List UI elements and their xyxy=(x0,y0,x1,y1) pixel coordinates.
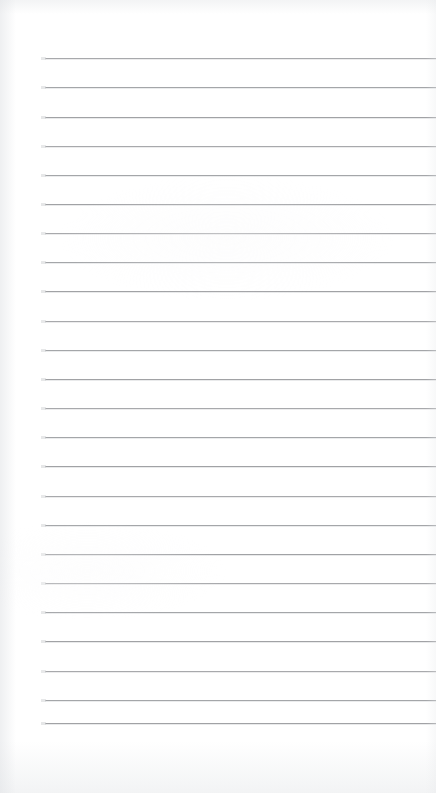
ruled-line xyxy=(45,117,436,118)
ruled-line xyxy=(45,87,436,88)
lined-note-page xyxy=(0,0,436,793)
ruled-line xyxy=(45,58,436,59)
ruled-line xyxy=(45,204,436,205)
ruled-line xyxy=(45,408,436,409)
ruled-line xyxy=(45,175,436,176)
ruled-line xyxy=(45,379,436,380)
ruled-line xyxy=(45,641,436,642)
ruled-line xyxy=(45,612,436,613)
ruled-line xyxy=(45,496,436,497)
ruled-line xyxy=(45,525,436,526)
ruled-line xyxy=(45,700,436,701)
ruled-line xyxy=(45,262,436,263)
ruled-line xyxy=(45,146,436,147)
ruled-line xyxy=(45,321,436,322)
ruling-layer xyxy=(0,0,436,793)
ruled-line xyxy=(45,350,436,351)
ruled-line xyxy=(45,437,436,438)
ruled-line xyxy=(45,233,436,234)
ruled-line xyxy=(45,723,436,724)
ruled-line xyxy=(45,466,436,467)
ruled-line xyxy=(45,583,436,584)
ruled-line xyxy=(45,671,436,672)
ruled-line xyxy=(45,554,436,555)
ruled-line xyxy=(45,291,436,292)
